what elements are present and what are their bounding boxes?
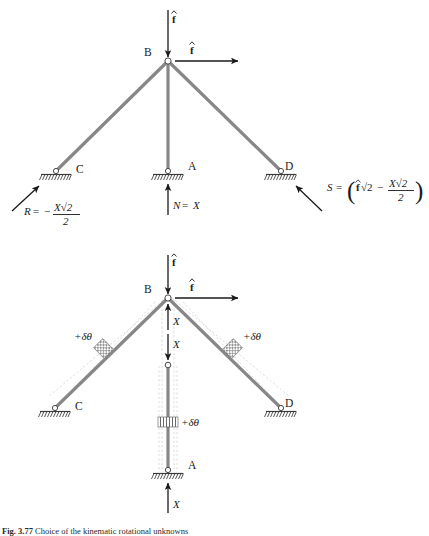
svg-text:=: = (336, 181, 342, 193)
pin-joint-B (165, 58, 171, 64)
svg-text:f: f (190, 44, 194, 56)
svg-text:−: − (377, 181, 383, 193)
svg-text:f: f (356, 181, 360, 193)
node-label-A-bottom: A (188, 459, 197, 471)
label-vertical-load-bottom: f (172, 254, 177, 268)
hinge-left-label: +δθ (74, 330, 93, 342)
right-paren: ) (415, 177, 423, 205)
hinge-middle-member (158, 417, 178, 427)
svg-text:X√2: X√2 (53, 201, 73, 213)
hinge-right-label: +δθ (243, 330, 262, 342)
member-BD-bottom (168, 298, 281, 408)
member-BC (56, 61, 168, 171)
caption-number: Fig. 3.77 (2, 526, 33, 536)
member-BC-bottom (55, 298, 168, 408)
label-vertical-load-top: f (172, 11, 177, 25)
svg-text:S: S (327, 181, 333, 193)
svg-text:√2: √2 (361, 181, 373, 193)
label-internal-X-base: X (172, 498, 181, 510)
left-paren: ( (347, 177, 355, 205)
node-label-A-top: A (188, 160, 197, 172)
arrow-reaction-S (296, 186, 322, 211)
node-label-C-top: C (76, 163, 84, 175)
svg-text:2: 2 (398, 191, 404, 203)
term-f-sqrt2: f √2 (356, 180, 373, 193)
pin-joint-B-bottom (165, 295, 171, 301)
node-label-B-top: B (144, 46, 152, 58)
bottom-diagram-group: +δθ +δθ +δθ B f f (39, 254, 297, 513)
label-horizontal-load-bottom: f (190, 279, 195, 293)
reaction-N-expression: N = X (172, 199, 201, 211)
support-C-top (40, 168, 72, 180)
svg-text:f: f (190, 281, 194, 293)
svg-text:=: = (33, 205, 39, 217)
node-label-C-bottom: C (75, 400, 83, 412)
node-label-B-bottom: B (144, 283, 152, 295)
svg-text:R: R (23, 205, 31, 217)
caption-text: Choice of the kinematic rotational unkno… (35, 526, 188, 536)
support-A-top (152, 168, 184, 180)
node-label-D-top: D (285, 160, 293, 172)
svg-text:X√2: X√2 (388, 177, 408, 189)
top-diagram-group: B f f (12, 10, 423, 227)
svg-text:X: X (192, 199, 201, 211)
svg-text:N: N (172, 199, 181, 211)
member-BD (168, 61, 281, 171)
label-internal-X-up: X (172, 315, 181, 327)
figure-caption: Fig. 3.77 Choice of the kinematic rotati… (2, 526, 188, 536)
label-horizontal-load-top: f (190, 42, 195, 56)
label-internal-X-down: X (172, 338, 181, 350)
support-A-bottom (152, 467, 184, 479)
truss-members-top (56, 61, 281, 171)
svg-text:−: − (44, 205, 50, 217)
pin-joint-cut (165, 362, 171, 368)
reaction-R-expression: R = − X√2 2 (23, 201, 80, 227)
hinge-middle-label: +δθ (181, 416, 200, 428)
svg-text:2: 2 (63, 215, 69, 227)
svg-text:f: f (172, 13, 176, 25)
svg-text:f: f (172, 256, 176, 268)
svg-text:=: = (182, 199, 188, 211)
reaction-S-expression: S = ( f √2 − X√2 2 ) (327, 177, 423, 205)
support-C-bottom (39, 405, 71, 417)
node-label-D-bottom: D (285, 397, 293, 409)
